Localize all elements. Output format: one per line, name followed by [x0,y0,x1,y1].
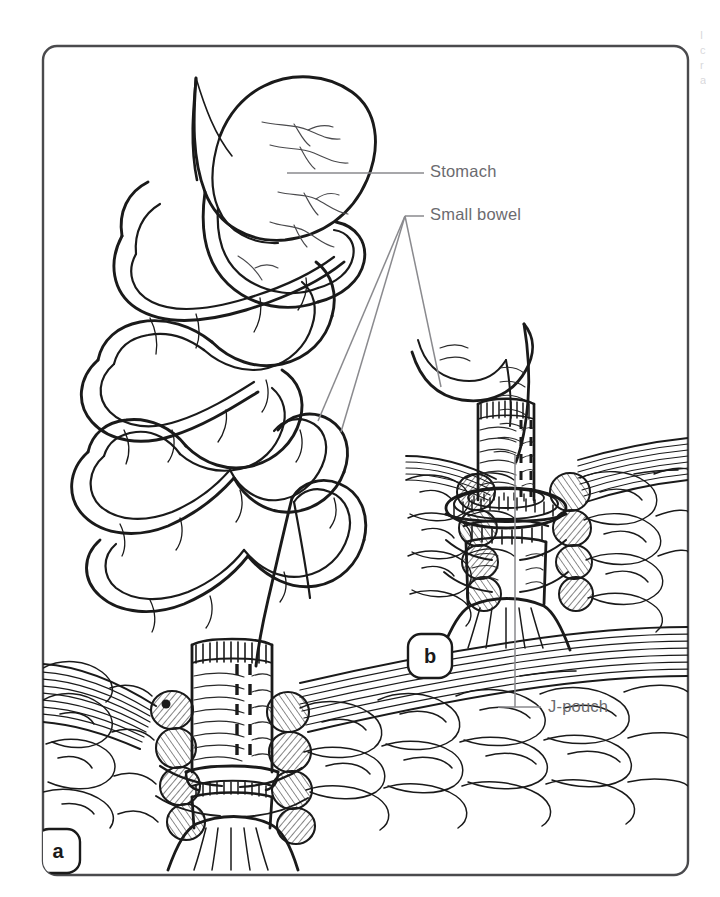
figure-root: Stomach Small bowel J-pouch a b I c r a [0,0,720,897]
label-j-pouch: J-pouch [548,698,608,715]
caption-fragment-3: r [700,58,704,73]
caption-fragment-1: I [700,28,703,43]
caption-fragment-2: c [700,43,706,58]
panel-label-b: b [408,646,452,666]
label-small-bowel: Small bowel [430,206,521,223]
panel-label-a: a [36,841,80,861]
caption-fragment-4: a [700,73,706,88]
medical-illustration-canvas [0,0,720,897]
label-stomach: Stomach [430,163,497,180]
